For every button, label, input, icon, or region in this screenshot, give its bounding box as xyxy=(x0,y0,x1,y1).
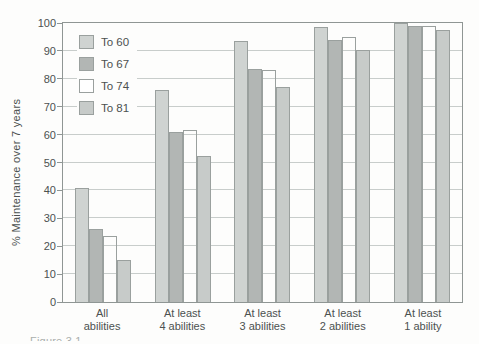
legend-swatch-to-74 xyxy=(79,79,94,93)
bar-to-81 xyxy=(197,156,211,302)
y-tick-label-20: 20 xyxy=(22,241,56,252)
bar-to-81 xyxy=(436,30,450,302)
bar-to-74 xyxy=(422,26,436,302)
y-axis-title: % Maintenance over 7 years xyxy=(10,99,22,246)
y-tick-label-30: 30 xyxy=(22,213,56,224)
bar-to-60 xyxy=(75,188,89,302)
legend-swatch-to-67 xyxy=(79,57,94,71)
bar-to-67 xyxy=(89,229,103,302)
x-axis-label-3: At least 3 abilities xyxy=(222,307,302,333)
bar-to-67 xyxy=(328,40,342,302)
bar-to-74 xyxy=(262,70,276,302)
bar-group-3 xyxy=(223,23,303,302)
y-tick-label-90: 90 xyxy=(22,46,56,57)
y-tick-label-60: 60 xyxy=(22,130,56,141)
x-axis-labels: All abilitiesAt least 4 abilitiesAt leas… xyxy=(62,307,463,333)
bar-to-67 xyxy=(408,26,422,302)
bar-group-2 xyxy=(143,23,223,302)
bar-to-74 xyxy=(342,37,356,302)
y-tick-label-100: 100 xyxy=(22,18,56,29)
bar-to-74 xyxy=(183,130,197,302)
bar-to-67 xyxy=(248,69,262,302)
y-tick-label-70: 70 xyxy=(22,102,56,113)
legend-swatch-to-60 xyxy=(79,35,94,49)
bar-to-67 xyxy=(169,132,183,302)
legend-label-to-60: To 60 xyxy=(101,36,129,48)
legend-row-to-60: To 60 xyxy=(79,31,129,53)
x-axis-label-4: At least 2 abilities xyxy=(303,307,383,333)
bar-group-5 xyxy=(382,23,462,302)
y-tick-label-0: 0 xyxy=(22,297,56,308)
bar-to-60 xyxy=(234,41,248,302)
y-tick-label-10: 10 xyxy=(22,269,56,280)
legend-label-to-74: To 74 xyxy=(101,80,129,92)
figure: % Maintenance over 7 years 0102030405060… xyxy=(0,0,479,344)
bar-to-74 xyxy=(103,236,117,302)
bar-to-60 xyxy=(155,90,169,302)
bar-to-60 xyxy=(314,27,328,302)
x-axis-label-5: At least 1 ability xyxy=(383,307,463,333)
y-tick-label-50: 50 xyxy=(22,158,56,169)
legend-row-to-67: To 67 xyxy=(79,53,129,75)
x-axis-label-1: All abilities xyxy=(62,307,142,333)
bar-group-4 xyxy=(302,23,382,302)
legend-label-to-81: To 81 xyxy=(101,102,129,114)
plot-area: To 60To 67To 74To 81 xyxy=(62,22,463,303)
legend-row-to-81: To 81 xyxy=(79,97,129,119)
bar-to-81 xyxy=(117,260,131,302)
bar-to-81 xyxy=(356,50,370,302)
bar-to-60 xyxy=(394,23,408,302)
bar-to-81 xyxy=(276,87,290,302)
y-tick-label-80: 80 xyxy=(22,74,56,85)
y-tick-label-40: 40 xyxy=(22,185,56,196)
caption-fragment: Figure 3.1 xyxy=(30,336,450,341)
x-axis-label-2: At least 4 abilities xyxy=(142,307,222,333)
legend-row-to-74: To 74 xyxy=(79,75,129,97)
legend: To 60To 67To 74To 81 xyxy=(77,29,137,121)
legend-label-to-67: To 67 xyxy=(101,58,129,70)
legend-swatch-to-81 xyxy=(79,101,94,115)
